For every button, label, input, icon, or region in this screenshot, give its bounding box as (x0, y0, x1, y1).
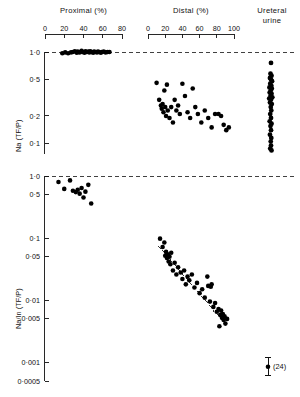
data-point (209, 125, 214, 130)
data-point (223, 321, 228, 326)
bottom-panel-ytick-label: 0·05 (26, 252, 40, 261)
distal-axis-tick-label: 20 (161, 24, 169, 33)
data-point (213, 301, 218, 306)
data-point (206, 116, 211, 121)
data-point (83, 189, 88, 194)
bottom-panel-ytick-label: 0·1 (30, 234, 40, 243)
data-point (195, 281, 200, 286)
distal-axis-tick-label: 100 (228, 24, 240, 33)
data-point (62, 187, 67, 192)
data-point (165, 108, 170, 113)
data-point (172, 98, 177, 103)
data-point (183, 94, 188, 99)
data-point (158, 236, 163, 241)
top-panel-ytick-label: 0·1 (30, 139, 40, 148)
data-point (199, 120, 204, 125)
data-point (174, 272, 179, 277)
data-point (268, 124, 273, 129)
data-point (160, 245, 165, 250)
proximal-axis-tick-label: 20 (60, 24, 68, 33)
data-point (185, 110, 190, 115)
data-point (180, 277, 185, 282)
figure-canvas: Proximal (%) Distal (%) Ureteral urine N… (0, 0, 300, 397)
data-point (200, 287, 205, 292)
data-point (269, 148, 274, 153)
data-point (190, 272, 195, 277)
bottom-panel-ytick-label: 0·0005 (18, 377, 40, 386)
data-point (208, 299, 213, 304)
top-panel-ytick-label: 0·5 (30, 75, 40, 84)
data-point (167, 254, 172, 259)
data-point (190, 86, 195, 91)
data-point (205, 274, 210, 279)
data-point (161, 110, 166, 115)
data-point (174, 108, 179, 113)
data-point (217, 324, 222, 329)
data-point (188, 116, 193, 121)
data-point (221, 123, 226, 128)
data-point (268, 112, 273, 117)
data-point (193, 105, 198, 110)
bottom-panel-ytick-label: 0·5 (30, 190, 40, 199)
data-point (162, 88, 167, 93)
data-point (165, 82, 170, 87)
data-point (202, 295, 207, 300)
data-point (269, 61, 274, 66)
data-point (56, 180, 61, 185)
distal-axis-tick-label: 0 (146, 24, 150, 33)
data-point (227, 125, 232, 130)
distal-axis-tick-label: 80 (213, 24, 221, 33)
data-point (107, 50, 112, 55)
data-point (225, 317, 230, 322)
data-point (196, 112, 201, 117)
data-point (219, 114, 224, 119)
data-point (180, 81, 185, 86)
proximal-axis-tick-label: 40 (80, 24, 88, 33)
distal-axis-tick-label: 40 (178, 24, 186, 33)
top-panel-ytick-label: 0·2 (30, 112, 40, 121)
data-point (77, 191, 82, 196)
distal-axis-tick-label: 60 (196, 24, 204, 33)
data-point (269, 128, 274, 133)
data-point (171, 268, 176, 273)
data-point (169, 105, 174, 110)
data-point (86, 183, 91, 188)
data-point (168, 262, 173, 267)
data-point (154, 81, 159, 86)
bottom-panel-ytick-label: 0·001 (22, 358, 40, 367)
data-point (202, 108, 207, 113)
bottom-panel-ytick-label: 0·005 (22, 314, 40, 323)
proximal-axis-tick-label: 80 (118, 24, 126, 33)
bottom-panel-ytick-label: 0·01 (26, 296, 40, 305)
error-bar-point (266, 364, 271, 369)
data-point (172, 261, 177, 266)
data-point (81, 195, 86, 200)
data-point (208, 284, 213, 289)
data-point (176, 103, 181, 108)
bottom-panel-ytick-label: 1·0 (30, 172, 40, 181)
data-point (68, 178, 73, 183)
top-panel-ytick-label: 1·0 (30, 48, 40, 57)
data-point (178, 112, 183, 117)
data-point (184, 282, 189, 287)
data-point (192, 285, 197, 290)
data-point (162, 240, 167, 245)
data-point (197, 291, 202, 296)
data-point (176, 265, 181, 270)
plot-svg: 0204060800204060801001·00·50·20·11·00·50… (0, 0, 300, 397)
proximal-axis-tick-label: 0 (43, 24, 47, 33)
data-point (169, 250, 174, 255)
data-point (187, 278, 192, 283)
data-point (79, 186, 84, 191)
data-point (167, 116, 172, 121)
data-point (182, 268, 187, 273)
data-point (157, 98, 162, 103)
data-point (89, 201, 94, 206)
data-point (171, 120, 176, 125)
proximal-axis-tick-label: 60 (99, 24, 107, 33)
